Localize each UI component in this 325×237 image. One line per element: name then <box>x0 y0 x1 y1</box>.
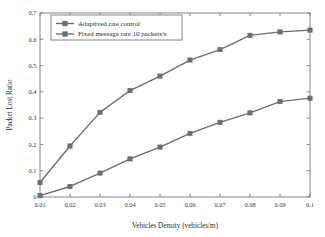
data-point-marker <box>68 144 72 148</box>
data-point-marker <box>248 33 252 37</box>
x-tick-label: 0.02 <box>64 201 75 208</box>
data-point-marker <box>158 145 162 149</box>
y-tick-label: 0.6 <box>29 36 37 43</box>
data-point-marker <box>158 74 162 78</box>
x-tick-label: 0.08 <box>244 201 255 208</box>
data-point-marker <box>248 111 252 115</box>
x-tick-label: 0.05 <box>154 201 165 208</box>
data-point-marker <box>98 110 102 114</box>
series-line <box>40 30 310 182</box>
chart-legend: Adaptived rate controlFixed message rate… <box>51 15 182 40</box>
legend-label: Adaptived rate control <box>78 20 140 27</box>
x-tick-label: 0.01 <box>34 201 45 208</box>
series-0 <box>38 96 312 198</box>
x-tick-label: 0.09 <box>274 201 285 208</box>
data-point-marker <box>98 171 102 175</box>
x-tick-label: 0.06 <box>184 201 195 208</box>
y-axis-title: Packet Lost Ratio <box>6 79 14 131</box>
data-point-marker <box>218 47 222 51</box>
x-axis-tick-labels: 0.010.020.030.040.050.060.070.080.090.1 <box>34 201 314 208</box>
data-point-marker <box>188 131 192 135</box>
data-series-group <box>38 28 312 198</box>
x-tick-label: 0.07 <box>214 201 226 208</box>
figure-canvas: 0.010.020.030.040.050.060.070.080.090.1 … <box>0 0 325 237</box>
legend-swatch-marker <box>63 32 67 36</box>
x-tick-label: 0.1 <box>306 201 314 208</box>
y-tick-label: 0.1 <box>29 167 37 174</box>
x-axis-title: Vehicles Density (vehicles/m) <box>132 222 219 230</box>
data-point-marker <box>308 96 312 100</box>
data-point-marker <box>188 58 192 62</box>
x-tick-label: 0.04 <box>124 201 136 208</box>
data-point-marker <box>128 88 132 92</box>
y-tick-label: 0 <box>33 193 36 200</box>
y-tick-label: 0.7 <box>29 9 38 16</box>
legend-swatch-marker <box>63 21 67 25</box>
y-tick-label: 0.4 <box>29 88 38 95</box>
data-point-marker <box>308 28 312 32</box>
series-line <box>40 98 310 196</box>
y-tick-label: 0.2 <box>29 141 37 148</box>
line-chart: 0.010.020.030.040.050.060.070.080.090.1 … <box>0 0 325 237</box>
data-point-marker <box>128 157 132 161</box>
data-point-marker <box>278 99 282 103</box>
y-tick-label: 0.5 <box>29 62 37 69</box>
data-point-marker <box>38 194 42 198</box>
data-point-marker <box>278 30 282 34</box>
x-tick-label: 0.03 <box>94 201 105 208</box>
data-point-marker <box>38 180 42 184</box>
legend-label: Fixed message rate 10 packets/s <box>78 30 167 37</box>
series-1 <box>38 28 312 185</box>
data-point-marker <box>68 184 72 188</box>
y-tick-label: 0.3 <box>29 114 37 121</box>
y-axis-tick-labels: 00.10.20.30.40.50.60.7 <box>29 9 38 200</box>
data-point-marker <box>218 120 222 124</box>
